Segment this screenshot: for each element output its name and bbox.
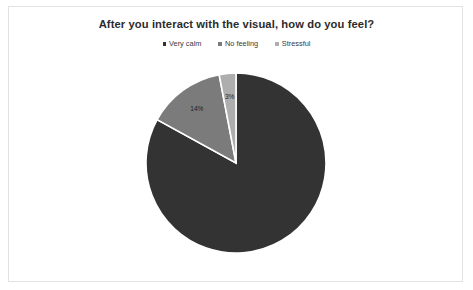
legend-item-stressful[interactable]: Stressful <box>275 39 310 49</box>
chart-legend: Very calm No feeling Stressful <box>0 39 473 49</box>
legend-item-label: Very calm <box>169 39 201 49</box>
legend-swatch-icon <box>275 42 279 46</box>
pie-slice-label: 3% <box>225 93 235 100</box>
pie-slice-label: 14% <box>190 105 203 112</box>
pie-chart-screenshot: After you interact with the visual, how … <box>0 0 473 290</box>
legend-item-very-calm[interactable]: Very calm <box>163 39 202 49</box>
legend-item-label: Stressful <box>282 39 311 49</box>
legend-item-label: No feeling <box>225 39 258 49</box>
legend-swatch-icon <box>218 42 222 46</box>
legend-item-no-feeling[interactable]: No feeling <box>218 39 258 49</box>
pie-chart-plot-area: 14%3% <box>145 72 327 254</box>
pie-chart-svg: 14%3% <box>145 72 327 254</box>
chart-title: After you interact with the visual, how … <box>0 17 473 31</box>
legend-swatch-icon <box>163 42 167 46</box>
pie-slice-group <box>146 73 326 253</box>
